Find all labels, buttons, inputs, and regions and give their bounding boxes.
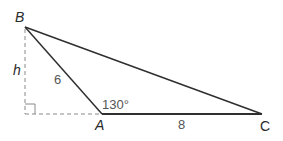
vertex-label-B: B	[15, 9, 24, 25]
side-AC-length-label: 8	[178, 117, 185, 132]
side-BC	[25, 27, 262, 114]
vertex-label-A: A	[94, 117, 104, 133]
height-label: h	[13, 62, 21, 78]
right-angle-marker	[25, 104, 35, 114]
triangle-diagram: B h 6 130° A 8 C	[0, 0, 283, 141]
vertex-label-C: C	[260, 118, 270, 134]
side-AB	[25, 27, 102, 114]
side-AB-length-label: 6	[54, 72, 61, 87]
angle-A-label: 130°	[102, 97, 129, 112]
